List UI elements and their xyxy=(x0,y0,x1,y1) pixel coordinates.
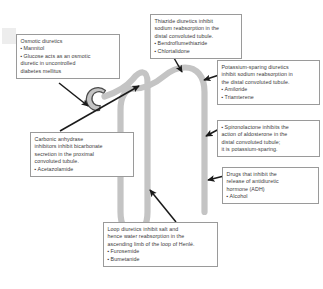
callout-carbonic-heading: Carbonic anhydrase inhibitors inhibit bi… xyxy=(35,136,131,166)
callout-adh-heading: Drugs that inhibit the release of antidi… xyxy=(227,171,316,194)
list-item: Triamterene xyxy=(222,94,317,102)
list-item: Bumetanide xyxy=(108,256,215,264)
callout-loop-list: Furosemide Bumetanide xyxy=(108,248,215,263)
callout-thiazide-heading: Thiazide diuretics inhibit sodium reabso… xyxy=(155,18,239,41)
callout-osmotic-heading: Osmotic diuretics xyxy=(21,38,117,46)
arrow-osmotic xyxy=(59,83,88,106)
list-item: Glucose acts as an osmotic diuretic in u… xyxy=(21,53,117,76)
callout-potassium-sparing-diuretics: Potassium-sparing diuretics inhibit sodi… xyxy=(217,60,320,105)
callout-adh-inhibitors: Drugs that inhibit the release of antidi… xyxy=(222,167,319,204)
callout-osmotic-diuretics: Osmotic diuretics Mannitol Glucose acts … xyxy=(16,34,120,79)
list-item: Acetazolamide xyxy=(35,166,131,174)
callout-potassium-heading: Potassium-sparing diuretics inhibit sodi… xyxy=(222,64,317,87)
callout-loop-diuretics: Loop diuretics inhibit salt and hence wa… xyxy=(103,222,218,267)
list-item: Furosemide xyxy=(108,248,215,256)
callout-osmotic-list: Mannitol Glucose acts as an osmotic diur… xyxy=(21,45,117,75)
callout-thiazide-list: Bendroflumethiazide Chlortalidone xyxy=(155,40,239,55)
callout-loop-heading: Loop diuretics inhibit salt and hence wa… xyxy=(108,226,215,249)
arrow-loop xyxy=(150,190,176,222)
callout-spironolactone-list: Spironolactone inhibits the action of al… xyxy=(222,124,317,154)
list-item: Spironolactone inhibits the action of al… xyxy=(222,124,317,154)
list-item: Mannitol xyxy=(21,45,117,53)
callout-adh-list: Alcohol xyxy=(227,193,316,201)
list-item: Chlortalidone xyxy=(155,48,239,56)
callout-carbonic-anhydrase-inhibitors: Carbonic anhydrase inhibitors inhibit bi… xyxy=(30,132,134,177)
list-item: Amiloride xyxy=(222,86,317,94)
callout-spironolactone: Spironolactone inhibits the action of al… xyxy=(217,120,320,157)
scan-artifact xyxy=(2,28,16,44)
callout-carbonic-list: Acetazolamide xyxy=(35,166,131,174)
diuretics-nephron-diagram: Osmotic diuretics Mannitol Glucose acts … xyxy=(0,0,323,289)
callout-potassium-list: Amiloride Triamterene xyxy=(222,86,317,101)
callout-thiazide-diuretics: Thiazide diuretics inhibit sodium reabso… xyxy=(150,14,242,59)
list-item: Bendroflumethiazide xyxy=(155,40,239,48)
list-item: Alcohol xyxy=(227,193,316,201)
